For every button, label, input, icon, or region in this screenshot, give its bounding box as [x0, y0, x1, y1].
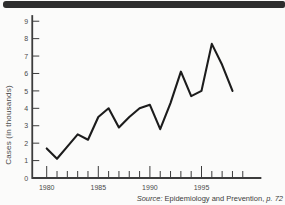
y-tick-label: 1 — [24, 157, 28, 164]
x-tick-label: 1995 — [194, 184, 210, 191]
y-tick-label: 6 — [24, 70, 28, 77]
source-body: Epidemiology and Prevention, — [162, 194, 266, 203]
y-tick-label: 0 — [24, 175, 28, 182]
y-tick-label: 4 — [24, 105, 28, 112]
y-tick-label: 9 — [24, 18, 28, 25]
y-tick-label: 5 — [24, 88, 28, 95]
x-tick-label: 1980 — [39, 184, 55, 191]
y-tick-label: 3 — [24, 122, 28, 129]
y-tick-label: 8 — [24, 35, 28, 42]
source-page: p. 72 — [266, 194, 283, 203]
line-chart: 01234567891980198519901995 — [0, 0, 285, 205]
x-tick-label: 1985 — [91, 184, 107, 191]
y-tick-label: 7 — [24, 53, 28, 60]
data-line — [47, 44, 233, 159]
source-credit: Source: Epidemiology and Prevention, p. … — [137, 194, 283, 203]
source-label: Source: — [137, 194, 163, 203]
y-axis-title: Cases (in thousands) — [4, 55, 14, 195]
scanned-chart-figure: 01234567891980198519901995 Cases (in tho… — [0, 0, 285, 205]
y-tick-label: 2 — [24, 140, 28, 147]
x-tick-label: 1990 — [142, 184, 158, 191]
